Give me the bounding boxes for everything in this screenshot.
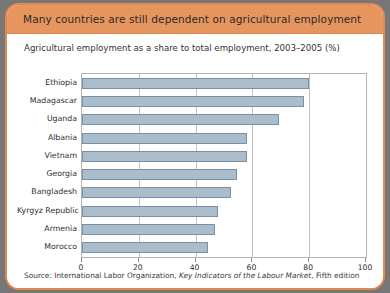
bar-row (82, 151, 247, 162)
bar-row (82, 96, 304, 107)
bar-row (82, 206, 218, 217)
chart-body: Agricultural employment as a share to to… (7, 34, 383, 288)
bar-armenia (82, 224, 215, 235)
bar-albania (82, 133, 247, 144)
bar-series (82, 74, 366, 257)
source-note: Source: International Labor Organization… (24, 271, 360, 280)
x-tick-mark-80 (308, 258, 309, 262)
figure-card: Many countries are still dependent on ag… (5, 3, 385, 290)
x-tick-mark-60 (251, 258, 252, 262)
category-label-georgia: Georgia (17, 169, 77, 178)
bar-uganda (82, 114, 279, 125)
figure-title-band: Many countries are still dependent on ag… (7, 5, 383, 34)
category-label-vietnam: Vietnam (17, 151, 77, 160)
plot-area (81, 73, 367, 258)
x-tick-mark-0 (81, 258, 82, 262)
source-title-italic: Key Indicators of the Labour Market (179, 271, 311, 280)
source-suffix: , Fifth edition (311, 271, 359, 280)
bar-georgia (82, 169, 237, 180)
category-axis-labels: EthiopiaMadagascarUgandaAlbaniaVietnamGe… (15, 73, 77, 258)
bar-madagascar (82, 96, 304, 107)
figure-title: Many countries are still dependent on ag… (7, 13, 361, 25)
category-label-morocco: Morocco (17, 242, 77, 251)
bar-row (82, 78, 309, 89)
bar-morocco (82, 242, 208, 253)
category-label-madagascar: Madagascar (17, 96, 77, 105)
bar-row (82, 169, 237, 180)
bar-row (82, 114, 279, 125)
bar-row (82, 133, 247, 144)
x-tick-mark-100 (365, 258, 366, 262)
category-label-bangladesh: Bangladesh (17, 187, 77, 196)
category-label-albania: Albania (17, 133, 77, 142)
bar-row (82, 224, 215, 235)
chart-subtitle: Agricultural employment as a share to to… (24, 43, 340, 53)
bar-kyrgyz-republic (82, 206, 218, 217)
bar-vietnam (82, 151, 247, 162)
category-label-kyrgyz-republic: Kyrgyz Republic (17, 206, 77, 215)
source-prefix: Source: International Labor Organization… (24, 271, 179, 280)
category-label-ethiopia: Ethiopia (17, 78, 77, 87)
category-label-uganda: Uganda (17, 114, 77, 123)
category-label-armenia: Armenia (17, 224, 77, 233)
x-tick-mark-40 (195, 258, 196, 262)
bar-bangladesh (82, 187, 231, 198)
bar-row (82, 242, 208, 253)
bar-ethiopia (82, 78, 309, 89)
bar-row (82, 187, 231, 198)
x-tick-mark-20 (138, 258, 139, 262)
